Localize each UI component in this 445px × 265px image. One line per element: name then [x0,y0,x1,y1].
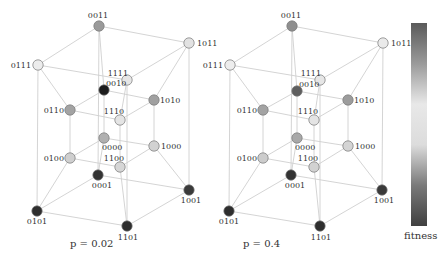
node-0100 [258,153,268,163]
edge-0001-0101 [37,175,98,211]
node-label-0001: 0001 [92,181,112,190]
edge-1011-1001 [382,43,383,190]
edge-1000-1100 [314,146,348,167]
node-label-0101: 0101 [27,217,47,226]
edge-1100-1101 [120,167,127,226]
edge-0000-0100 [263,138,297,158]
edge-0011-1011 [99,26,189,43]
edge-1000-1001 [348,146,382,190]
edge-0011-0111 [230,26,292,65]
node-0001 [93,170,103,180]
node-0110 [258,105,268,115]
edge-0000-0100 [70,138,104,158]
edge-0011-0001 [291,26,292,175]
node-label-1000: 1000 [355,142,375,151]
node-label-1011: 1011 [391,39,411,48]
node-label-1110: 1110 [104,107,124,116]
hypercube-nodes [32,21,388,231]
node-label-1101: 1101 [118,233,138,242]
node-label-1001: 1001 [374,196,394,205]
node-0011 [94,21,104,31]
edge-1000-1001 [154,146,189,190]
edge-1010-1110 [120,100,154,120]
node-1011 [184,38,194,48]
node-label-1101: 1101 [311,233,331,242]
node-label-0111: 0111 [11,61,31,70]
node-1011 [378,38,388,48]
node-0101 [32,206,42,216]
node-label-0001: 0001 [285,181,305,190]
hypercube-edges [37,26,383,226]
edge-0101-1101 [229,211,320,226]
node-label-0000: 0000 [295,143,315,152]
edge-1011-1111 [127,43,189,80]
node-label-1111: 1111 [108,69,128,78]
edge-0011-1011 [292,26,383,43]
node-0100 [65,153,75,163]
node-0101 [224,206,234,216]
node-label-0010: 0010 [299,80,319,89]
node-1100 [115,162,125,172]
edge-0011-0010 [292,26,297,91]
node-label-0111: 0111 [203,61,223,70]
edge-0010-1010 [297,91,348,100]
edge-0010-1010 [104,90,154,100]
node-1110 [309,115,319,125]
node-label-0101: 0101 [219,217,239,226]
node-label-0011: 0011 [281,11,301,20]
colorbar-label: fitness [404,230,437,241]
edge-0001-0101 [229,175,291,211]
edge-0011-0010 [99,26,104,90]
edge-1011-1010 [154,43,189,100]
edge-1001-1101 [127,190,189,226]
edge-1100-1101 [314,167,320,226]
node-0111 [33,60,43,70]
node-label-1010: 1010 [160,96,180,105]
node-0011 [287,21,297,31]
node-1000 [343,141,353,151]
edge-0111-0101 [37,65,38,211]
edge-1011-1111 [320,43,383,80]
node-1000 [149,141,159,151]
edge-0100-0101 [229,158,263,211]
edge-0011-0001 [98,26,99,175]
edge-1000-1100 [120,146,154,167]
node-label-1000: 1000 [161,142,181,151]
edge-0111-0110 [38,65,70,110]
node-label-1011: 1011 [197,39,217,48]
node-1010 [149,95,159,105]
edge-1010-1110 [314,100,348,120]
node-1001 [184,185,194,195]
node-label-1111: 1111 [301,69,321,78]
node-1101 [315,221,325,231]
node-0001 [286,170,296,180]
node-label-1110: 1110 [298,107,318,116]
node-0000 [99,133,109,143]
fitness-colorbar [411,23,427,226]
node-label-0100: 0100 [44,154,64,163]
node-1010 [343,95,353,105]
node-label-1100: 1100 [298,154,318,163]
hypercube-diagram: 0011101101111111001010100110111000001000… [0,0,445,265]
panel-caption-left: p = 0.02 [70,238,113,249]
node-0000 [292,133,302,143]
node-label-0000: 0000 [102,143,122,152]
node-0111 [225,60,235,70]
node-1110 [115,115,125,125]
edge-0111-0110 [230,65,263,110]
node-label-1001: 1001 [181,196,201,205]
node-label-1010: 1010 [354,96,374,105]
node-1101 [122,221,132,231]
edge-0111-0101 [229,65,230,211]
node-0110 [65,105,75,115]
node-label-0010: 0010 [106,79,126,88]
node-1100 [309,162,319,172]
node-label-0110: 0110 [44,106,64,115]
node-label-0011: 0011 [88,11,108,20]
node-1001 [377,185,387,195]
panel-caption-right: p = 0.4 [243,238,280,249]
edge-1001-1101 [320,190,382,226]
edge-1011-1010 [348,43,383,100]
node-label-0110: 0110 [237,106,257,115]
node-label-0100: 0100 [237,154,257,163]
